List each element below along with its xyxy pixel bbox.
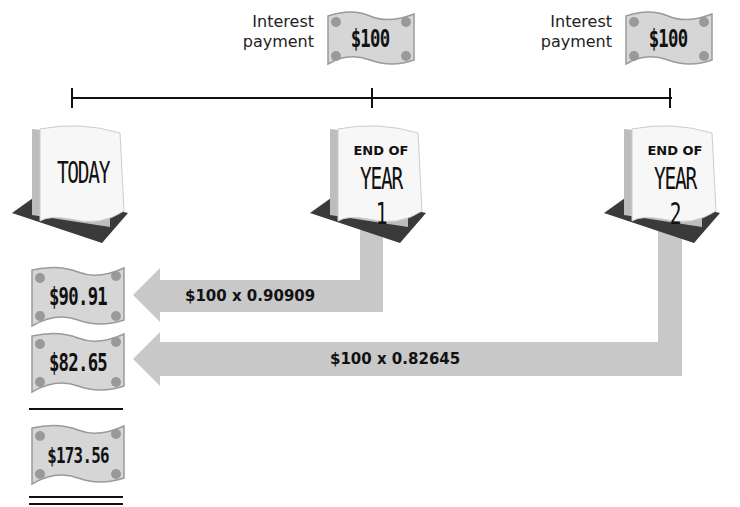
discount-formula-year2: $100 x 0.82645 [330, 350, 460, 368]
total-double-rule-top [29, 496, 123, 498]
sum-rule [29, 408, 123, 410]
present-value-bill-total: $173.56 [28, 422, 128, 488]
calendar-end-of-year-2: END OF YEAR 2 [602, 115, 722, 245]
present-value-bill-year1: $90.91 [28, 264, 128, 330]
calendar-end-of-year-1: END OF YEAR 1 [308, 115, 428, 245]
total-double-rule-bottom [29, 503, 123, 505]
discount-formula-year1: $100 x 0.90909 [185, 287, 315, 305]
calendar-today: TODAY [10, 115, 130, 245]
present-value-bill-year2: $82.65 [28, 330, 128, 396]
